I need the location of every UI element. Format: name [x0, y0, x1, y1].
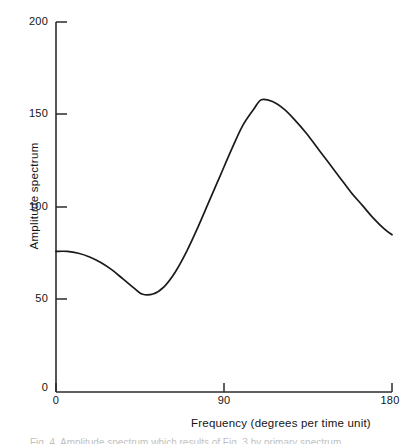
figure-root: 200 150 100 50 0 0 90 180 Amplitude spec… [0, 0, 418, 444]
y-tick-label-0: 0 [14, 381, 48, 393]
x-tick-label-90: 90 [204, 394, 244, 406]
chart-background [0, 0, 418, 444]
x-tick-label-180: 180 [370, 394, 410, 406]
amplitude-spectrum-chart [0, 0, 418, 444]
y-axis-title: Amplitude spectrum [28, 116, 40, 276]
y-tick-label-200: 200 [14, 15, 48, 27]
figure-caption: Fig. 4. Amplitude spectrum which results… [30, 436, 400, 444]
y-tick-label-50: 50 [14, 292, 48, 304]
x-tick-label-0: 0 [36, 394, 76, 406]
x-axis-title: Frequency (degrees per time unit) [150, 417, 412, 429]
